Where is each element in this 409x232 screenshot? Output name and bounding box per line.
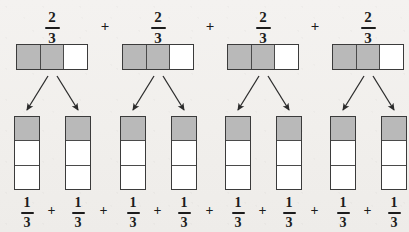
arrow-2-left (133, 76, 154, 110)
fraction-bar (127, 212, 140, 214)
numerator: 1 (286, 196, 293, 210)
fraction-bar (45, 27, 60, 29)
top-bar-3-cell-2 (251, 45, 275, 69)
bottom-bar-6-cell-2 (277, 140, 301, 164)
numerator: 1 (130, 196, 137, 210)
bottom-bar-1-cell-1 (15, 117, 39, 140)
bottom-bar-2 (65, 116, 91, 190)
numerator: 2 (364, 10, 372, 25)
bottom-bar-1 (14, 116, 40, 190)
bottom-plus-1: + (45, 204, 58, 218)
bottom-plus-7: + (361, 204, 374, 218)
bottom-bar-6 (276, 116, 302, 190)
bottom-bar-3 (120, 116, 146, 190)
bottom-bar-8-cell-2 (382, 140, 406, 164)
numerator: 2 (259, 10, 267, 25)
top-bar-3 (227, 44, 299, 70)
bottom-plus-2: + (97, 204, 110, 218)
bottom-bar-8-cell-1 (382, 117, 406, 140)
bottom-bar-7-cell-2 (331, 140, 355, 164)
top-plus-3: + (308, 19, 322, 34)
top-bar-1-cell-1 (17, 45, 40, 69)
top-bar-1-cell-3 (63, 45, 87, 69)
arrow-4-left (343, 76, 364, 110)
bottom-bar-7 (330, 116, 356, 190)
numerator: 1 (75, 196, 82, 210)
top-bar-4-cell-3 (379, 45, 403, 69)
bottom-bar-6-cell-1 (277, 117, 301, 140)
top-bar-2 (122, 44, 194, 70)
denominator: 3 (391, 216, 398, 230)
bottom-fraction-8: 1 3 (385, 196, 403, 230)
fraction-bar (283, 212, 296, 214)
bottom-bar-3-cell-2 (121, 140, 145, 164)
top-fraction-4: 2 3 (358, 10, 378, 46)
bottom-bar-8-cell-3 (382, 165, 406, 189)
top-bar-1 (16, 44, 88, 70)
top-fraction-1: 2 3 (42, 10, 62, 46)
bottom-fraction-2: 1 3 (69, 196, 87, 230)
top-bar-3-cell-1 (228, 45, 251, 69)
denominator: 3 (130, 216, 137, 230)
denominator: 3 (286, 216, 293, 230)
arrow-4-right (373, 76, 394, 110)
arrow-1-right (57, 76, 78, 110)
numerator: 1 (340, 196, 347, 210)
bottom-bar-4-cell-3 (172, 165, 196, 189)
denominator: 3 (24, 216, 31, 230)
bottom-bar-6-cell-3 (277, 165, 301, 189)
numerator: 1 (391, 196, 398, 210)
top-fraction-3: 2 3 (253, 10, 273, 46)
bottom-bar-3-cell-1 (121, 117, 145, 140)
bottom-bar-5-cell-2 (226, 140, 250, 164)
numerator: 1 (235, 196, 242, 210)
fraction-bar (361, 27, 376, 29)
bottom-bar-5-cell-1 (226, 117, 250, 140)
fraction-bar (72, 212, 85, 214)
top-bar-1-cell-2 (40, 45, 64, 69)
bottom-plus-4: + (203, 204, 216, 218)
top-bar-4 (332, 44, 404, 70)
denominator: 3 (235, 216, 242, 230)
bottom-bar-4-cell-2 (172, 140, 196, 164)
bottom-bar-4-cell-1 (172, 117, 196, 140)
numerator: 2 (48, 10, 56, 25)
numerator: 2 (154, 10, 162, 25)
denominator: 3 (340, 216, 347, 230)
numerator: 1 (181, 196, 188, 210)
top-bar-3-cell-3 (274, 45, 298, 69)
bottom-bar-7-cell-3 (331, 165, 355, 189)
bottom-plus-6: + (308, 204, 321, 218)
bottom-bar-5 (225, 116, 251, 190)
bottom-fraction-6: 1 3 (280, 196, 298, 230)
bottom-bar-2-cell-3 (66, 165, 90, 189)
fraction-decomposition-diagram: 2 3 + 2 3 + 2 3 + 2 3 (0, 0, 409, 232)
bottom-plus-5: + (256, 204, 269, 218)
arrow-3-left (238, 76, 259, 110)
denominator: 3 (75, 216, 82, 230)
bottom-fraction-5: 1 3 (229, 196, 247, 230)
bottom-bar-2-cell-1 (66, 117, 90, 140)
top-plus-2: + (203, 19, 217, 34)
numerator: 1 (24, 196, 31, 210)
fraction-bar (337, 212, 350, 214)
bottom-plus-3: + (151, 204, 164, 218)
bottom-fraction-1: 1 3 (18, 196, 36, 230)
top-bar-4-cell-2 (356, 45, 380, 69)
bottom-bar-7-cell-1 (331, 117, 355, 140)
fraction-bar (388, 212, 401, 214)
top-bar-2-cell-3 (169, 45, 193, 69)
fraction-bar (151, 27, 166, 29)
fraction-bar (178, 212, 191, 214)
bottom-fraction-7: 1 3 (334, 196, 352, 230)
fraction-bar (256, 27, 271, 29)
bottom-bar-2-cell-2 (66, 140, 90, 164)
top-fraction-2: 2 3 (148, 10, 168, 46)
bottom-fraction-4: 1 3 (175, 196, 193, 230)
fraction-bar (232, 212, 245, 214)
bottom-bar-8 (381, 116, 407, 190)
top-bar-4-cell-1 (333, 45, 356, 69)
bottom-fraction-3: 1 3 (124, 196, 142, 230)
arrow-3-right (268, 76, 289, 110)
bottom-bar-1-cell-2 (15, 140, 39, 164)
